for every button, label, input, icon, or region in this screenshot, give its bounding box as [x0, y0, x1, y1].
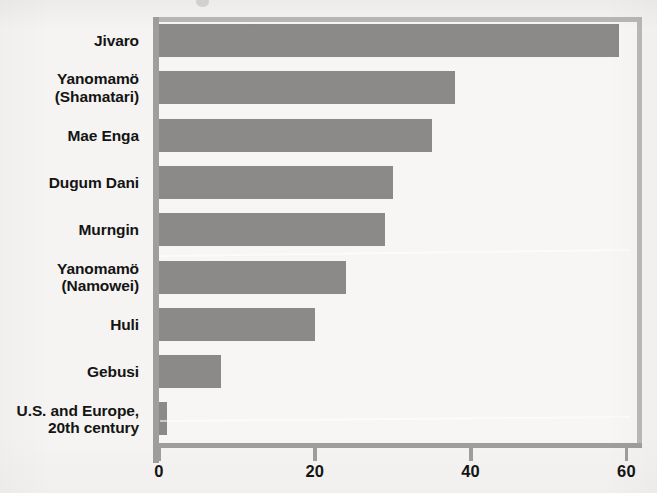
y-axis-label: Murngin [0, 221, 139, 239]
chart-page: JivaroYanomamö(Shamatari)Mae EngaDugum D… [0, 0, 657, 493]
y-axis-label: Yanomamö(Shamatari) [0, 70, 139, 105]
bar-row [159, 254, 642, 301]
y-axis-label-line: Murngin [0, 221, 139, 239]
y-axis-label: Yanomamö(Namowei) [0, 260, 139, 295]
y-axis-label-line: Yanomamö [0, 260, 139, 278]
bar [159, 166, 393, 199]
bar [159, 355, 221, 388]
y-axis-label: Mae Enga [0, 127, 139, 145]
y-axis-label-line: 20th century [0, 419, 139, 437]
y-axis-label-line: Mae Enga [0, 127, 139, 145]
bar [159, 308, 315, 341]
bar-row [159, 348, 642, 395]
x-axis-tick [625, 448, 629, 461]
x-axis-tick-label: 40 [441, 462, 501, 481]
y-axis-category-labels: JivaroYanomamö(Shamatari)Mae EngaDugum D… [0, 17, 148, 443]
y-axis-label-line: (Shamatari) [0, 88, 139, 106]
y-axis-label-line: Yanomamö [0, 70, 139, 88]
y-axis-label-line: Gebusi [0, 363, 139, 381]
bar-row [159, 301, 642, 348]
x-axis-tick [313, 448, 317, 461]
bar-series [159, 17, 642, 443]
bar-row [159, 395, 642, 442]
y-axis-label: Huli [0, 316, 139, 334]
bar-row [159, 17, 642, 64]
x-axis-tick-label: 20 [285, 462, 345, 481]
bar [159, 402, 167, 435]
y-axis-label-line: U.S. and Europe, [0, 402, 139, 420]
bar [159, 261, 346, 294]
scan-blot [196, 0, 209, 7]
x-axis-tick-label: 60 [596, 462, 656, 481]
y-axis-label: Gebusi [0, 363, 139, 381]
bar [159, 24, 619, 57]
bar-row [159, 159, 642, 206]
y-axis-label: U.S. and Europe,20th century [0, 402, 139, 437]
bar-row [159, 64, 642, 111]
y-axis-label: Jivaro [0, 32, 139, 50]
x-axis-line [153, 443, 642, 448]
y-axis-label: Dugum Dani [0, 174, 139, 192]
y-axis-label-line: Dugum Dani [0, 174, 139, 192]
x-axis-tick-label: 0 [129, 462, 189, 481]
x-axis-tick [469, 448, 473, 461]
y-axis-label-line: Jivaro [0, 32, 139, 50]
x-axis-tick [158, 448, 162, 461]
bar [159, 213, 385, 246]
y-axis-label-line: (Namowei) [0, 277, 139, 295]
bar [159, 71, 455, 104]
bar [159, 119, 432, 152]
bar-row [159, 112, 642, 159]
y-axis-label-line: Huli [0, 316, 139, 334]
bar-row [159, 206, 642, 253]
